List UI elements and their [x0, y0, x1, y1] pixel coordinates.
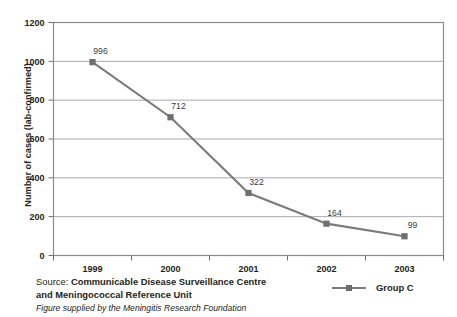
x-axis: 19992000200120022003 — [54, 256, 444, 274]
data-point-label: 996 — [93, 46, 108, 56]
figure-container: 020040060080010001200 199920002001200220… — [0, 0, 457, 317]
source-name-part-2: and Meningococcal Reference Unit — [36, 289, 306, 302]
data-point-label: 712 — [171, 101, 186, 111]
x-tick-label: 1999 — [82, 264, 102, 274]
x-tick-label: 2002 — [316, 264, 336, 274]
source-line-1: Source: Communicable Disease Surveillanc… — [36, 276, 306, 289]
data-point-label: 164 — [327, 208, 342, 218]
legend-square-marker-icon — [346, 285, 352, 291]
data-point-marker — [167, 114, 173, 120]
data-point-marker — [323, 221, 329, 227]
data-point-label: 99 — [408, 220, 418, 230]
x-tick-label: 2001 — [238, 264, 258, 274]
data-point-label: 322 — [249, 177, 264, 187]
legend-label-group-c: Group C — [376, 282, 414, 293]
source-block: Source: Communicable Disease Surveillanc… — [36, 276, 306, 315]
y-tick-label: 1200 — [24, 18, 44, 28]
source-name-part-1: Communicable Disease Surveillance Centre — [71, 276, 266, 287]
legend-swatch-group-c — [332, 283, 366, 292]
line-chart: 020040060080010001200 199920002001200220… — [0, 0, 457, 317]
y-axis-title: Number of cases (lab-confirmed) — [23, 45, 33, 225]
chart-legend: Group C — [332, 282, 414, 293]
data-point-marker — [245, 190, 251, 196]
x-tick-label: 2000 — [160, 264, 180, 274]
data-point-marker — [89, 59, 95, 65]
figure-credit: Figure supplied by the Meningitis Resear… — [36, 301, 306, 315]
source-label: Source: — [36, 276, 68, 287]
x-tick-label: 2003 — [394, 264, 414, 274]
data-point-marker — [401, 233, 407, 239]
y-tick-label: 0 — [39, 251, 44, 261]
